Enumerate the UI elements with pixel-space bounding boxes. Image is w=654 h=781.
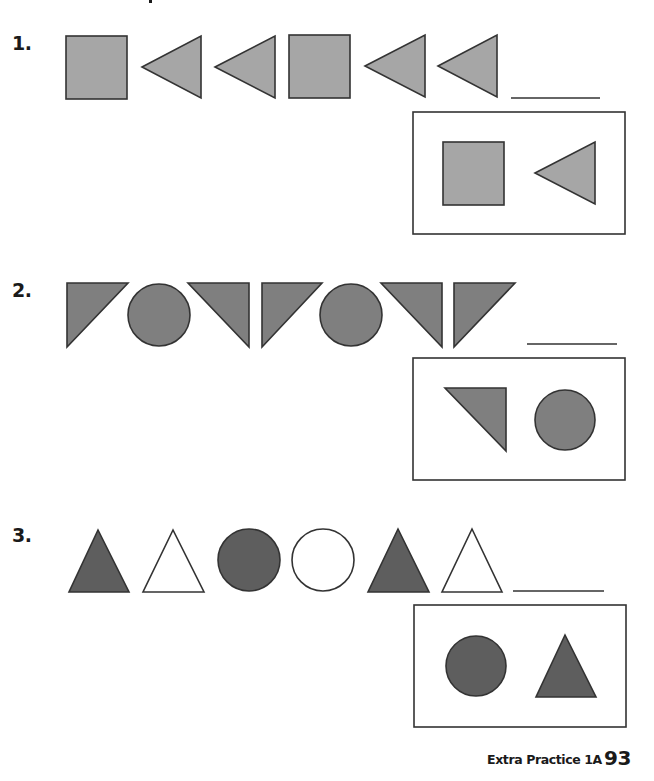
circle-white-shape <box>292 529 354 591</box>
right-triangle-shape <box>454 283 515 347</box>
circle-shape <box>320 284 382 346</box>
choice-triangle-left[interactable] <box>535 142 595 204</box>
right-triangle-shape <box>188 283 249 347</box>
choice-circle[interactable] <box>535 390 595 450</box>
triangle-left-shape <box>438 35 497 97</box>
triangle-white-shape <box>143 530 204 592</box>
triangle-left-shape <box>365 35 425 97</box>
right-triangle-shape <box>262 283 322 347</box>
worksheet-shapes <box>0 0 654 781</box>
circle-dark-shape <box>218 529 280 591</box>
triangle-dark-shape <box>368 529 429 592</box>
triangle-dark-shape <box>69 530 129 592</box>
triangle-left-shape <box>142 36 201 98</box>
choice-triangle-dark[interactable] <box>536 635 596 697</box>
choice-square[interactable] <box>443 142 504 205</box>
page-number: 93 <box>604 746 631 770</box>
circle-shape <box>128 284 190 346</box>
right-triangle-shape <box>381 283 442 347</box>
footer-section-label: Extra Practice 1A <box>487 752 602 767</box>
right-triangle-shape <box>67 283 128 347</box>
square-shape <box>289 35 350 98</box>
problem-3-sequence <box>69 529 502 592</box>
choice-right-triangle[interactable] <box>445 388 506 451</box>
problem-2-sequence <box>67 283 515 347</box>
problem-1-sequence <box>66 35 497 99</box>
triangle-white-shape <box>442 529 502 592</box>
choice-circle-dark[interactable] <box>446 636 506 696</box>
triangle-left-shape <box>215 36 275 98</box>
square-shape <box>66 36 127 99</box>
